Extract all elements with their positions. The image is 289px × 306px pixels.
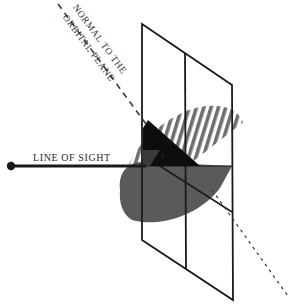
orbital-inclination-diagram: i NORMAL TO THE ORBITAL PLANE LINE OF SI… — [0, 0, 289, 306]
inclination-label: i — [161, 148, 165, 160]
line-of-sight-label: LINE OF SIGHT — [33, 152, 111, 163]
normal-axis-label: NORMAL TO THE ORBITAL PLANE — [60, 2, 129, 84]
orbit-near-half-shaded — [120, 162, 232, 223]
line-of-sight: LINE OF SIGHT — [7, 152, 146, 170]
